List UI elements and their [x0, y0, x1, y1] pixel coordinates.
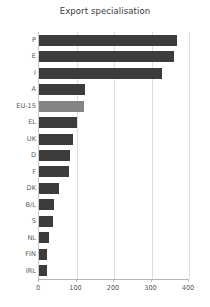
x-axis-tick-mark	[151, 279, 152, 282]
chart-title: Export specialisation	[0, 6, 210, 16]
bar-eu-15[interactable]	[39, 101, 84, 112]
y-axis-tick-label: NL	[2, 230, 36, 246]
bar-uk[interactable]	[39, 134, 73, 145]
bar-p[interactable]	[39, 35, 177, 46]
x-axis-tick-label: 300	[138, 284, 164, 292]
bar-e[interactable]	[39, 51, 174, 62]
bar-row[interactable]	[39, 246, 47, 262]
y-axis-tick-label: F	[2, 164, 36, 180]
y-axis-tick-label: UK	[2, 131, 36, 147]
y-axis-tick-label: I	[2, 65, 36, 81]
bar-irl[interactable]	[39, 265, 47, 276]
bar-row[interactable]	[39, 98, 84, 114]
bar-b-l[interactable]	[39, 199, 54, 210]
bar-row[interactable]	[39, 230, 49, 246]
y-axis-label-group: PEIAEU-15ELUKDFDKB/LSNLFINIRL	[0, 32, 36, 279]
bar-row[interactable]	[39, 263, 47, 279]
x-axis-tick-label: 0	[25, 284, 51, 292]
x-axis-tick-label: 200	[100, 284, 126, 292]
bar-dk[interactable]	[39, 183, 59, 194]
y-axis-tick-label: EU-15	[2, 98, 36, 114]
bar-row[interactable]	[39, 114, 77, 130]
bar-row[interactable]	[39, 197, 54, 213]
bar-i[interactable]	[39, 68, 162, 79]
y-axis-tick-label: B/L	[2, 197, 36, 213]
bar-row[interactable]	[39, 32, 177, 48]
y-axis-tick-label: S	[2, 213, 36, 229]
export-specialisation-chart: Export specialisation PEIAEU-15ELUKDFDKB…	[0, 0, 210, 307]
bar-row[interactable]	[39, 164, 69, 180]
bar-el[interactable]	[39, 117, 77, 128]
bar-row[interactable]	[39, 180, 59, 196]
x-axis-tick-mark	[38, 279, 39, 282]
bar-row[interactable]	[39, 65, 162, 81]
x-axis-tick-mark	[113, 279, 114, 282]
bar-f[interactable]	[39, 166, 69, 177]
bar-s[interactable]	[39, 216, 53, 227]
bar-a[interactable]	[39, 84, 85, 95]
bar-fin[interactable]	[39, 249, 47, 260]
y-axis-tick-label: EL	[2, 114, 36, 130]
bar-row[interactable]	[39, 147, 70, 163]
y-axis-tick-label: FIN	[2, 246, 36, 262]
y-axis-tick-label: A	[2, 81, 36, 97]
y-axis-tick-label: P	[2, 32, 36, 48]
y-axis-tick-label: D	[2, 147, 36, 163]
x-axis-tick-label: 100	[63, 284, 89, 292]
x-axis-tick-label: 400	[175, 284, 201, 292]
bar-d[interactable]	[39, 150, 70, 161]
y-axis-tick-label: DK	[2, 180, 36, 196]
bar-nl[interactable]	[39, 232, 49, 243]
x-axis-tick-mark	[188, 279, 189, 282]
y-axis-tick-label: IRL	[2, 263, 36, 279]
gridline	[189, 32, 190, 279]
x-axis-tick-mark	[76, 279, 77, 282]
plot-area	[38, 32, 188, 279]
bar-row[interactable]	[39, 48, 174, 64]
y-axis-tick-label: E	[2, 48, 36, 64]
bar-row[interactable]	[39, 81, 85, 97]
bar-row[interactable]	[39, 131, 73, 147]
bar-row[interactable]	[39, 213, 53, 229]
